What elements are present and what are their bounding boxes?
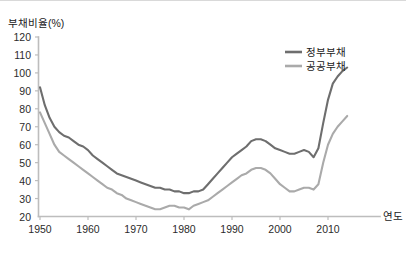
y-axis-title: 부채비율(%) bbox=[8, 17, 64, 29]
legend-label-government-debt: 정부부채 bbox=[306, 46, 346, 58]
x-tick-label: 2010 bbox=[316, 223, 340, 235]
series-line-government-debt bbox=[40, 68, 347, 194]
y-tick-label: 40 bbox=[19, 175, 31, 187]
chart-figure: 부채비율(%) 120 110 100 90 80 70 60 50 bbox=[0, 0, 406, 255]
series-line-public-debt bbox=[40, 112, 347, 209]
y-axis-tick-labels: 120 110 100 90 80 70 60 50 40 30 20 bbox=[13, 31, 31, 223]
y-tick-label: 110 bbox=[14, 49, 31, 61]
y-tick-label: 60 bbox=[19, 139, 31, 151]
x-tick-label: 1950 bbox=[28, 223, 52, 235]
x-tick-label: 1990 bbox=[220, 223, 244, 235]
y-tick-label: 50 bbox=[19, 157, 31, 169]
x-axis-tick-labels: 1950 1960 1970 1980 1990 2000 2010 bbox=[28, 223, 340, 235]
x-tick-label: 1980 bbox=[172, 223, 196, 235]
legend-label-public-debt: 공공부채 bbox=[306, 60, 346, 72]
x-tick-label: 1970 bbox=[124, 223, 148, 235]
x-tick-label: 1960 bbox=[76, 223, 100, 235]
y-tick-label: 80 bbox=[19, 103, 31, 115]
debt-ratio-line-chart: 부채비율(%) 120 110 100 90 80 70 60 50 bbox=[0, 1, 406, 255]
chart-legend: 정부부채 공공부채 bbox=[285, 46, 346, 72]
x-axis-title: 연도 bbox=[383, 210, 403, 222]
y-tick-label: 30 bbox=[19, 193, 31, 205]
y-tick-label: 90 bbox=[19, 85, 31, 97]
y-tick-label: 120 bbox=[13, 31, 31, 43]
y-tick-label: 70 bbox=[19, 121, 31, 133]
x-tick-label: 2000 bbox=[268, 223, 292, 235]
y-tick-label: 100 bbox=[13, 67, 31, 79]
y-tick-label: 20 bbox=[19, 211, 31, 223]
